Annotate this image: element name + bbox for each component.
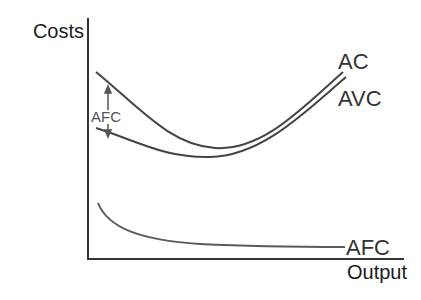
ac-label: AC [338, 49, 369, 74]
afc-gap-label: AFC [91, 108, 121, 125]
x-axis-label: Output [347, 261, 407, 283]
avc-curve [96, 77, 346, 157]
afc-label: AFC [346, 235, 390, 260]
afc-curve [98, 203, 345, 247]
y-axis-label: Costs [33, 20, 84, 42]
avc-label: AVC [338, 86, 382, 111]
cost-curves-chart: Costs Output AFC AC AVC AFC [0, 0, 421, 300]
